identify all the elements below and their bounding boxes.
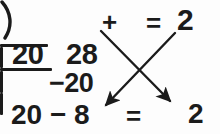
long-division-figure: 20 28 −20 20 − 8 + = 2 = 2	[0, 0, 220, 134]
equals-operator-top: =	[146, 10, 161, 36]
divisor-value: 20	[12, 40, 43, 69]
bottom-result-second-digit: 2	[188, 100, 204, 128]
quotient-value	[0, 47, 3, 68]
arrow-result-to-bottom-left	[106, 33, 175, 105]
arrow-quotient-to-bottom-right	[101, 31, 170, 101]
remainder-expression: 20 − 8	[11, 101, 90, 129]
top-result-value: 2	[177, 5, 194, 35]
plus-operator: +	[102, 9, 117, 35]
addend-value	[0, 71, 3, 93]
dividend-value: 28	[66, 40, 97, 69]
division-bracket-icon	[0, 0, 16, 40]
subtraction-row: −20	[49, 70, 93, 97]
equals-operator-bottom: =	[126, 103, 141, 129]
bottom-result-first-digit	[0, 93, 3, 115]
